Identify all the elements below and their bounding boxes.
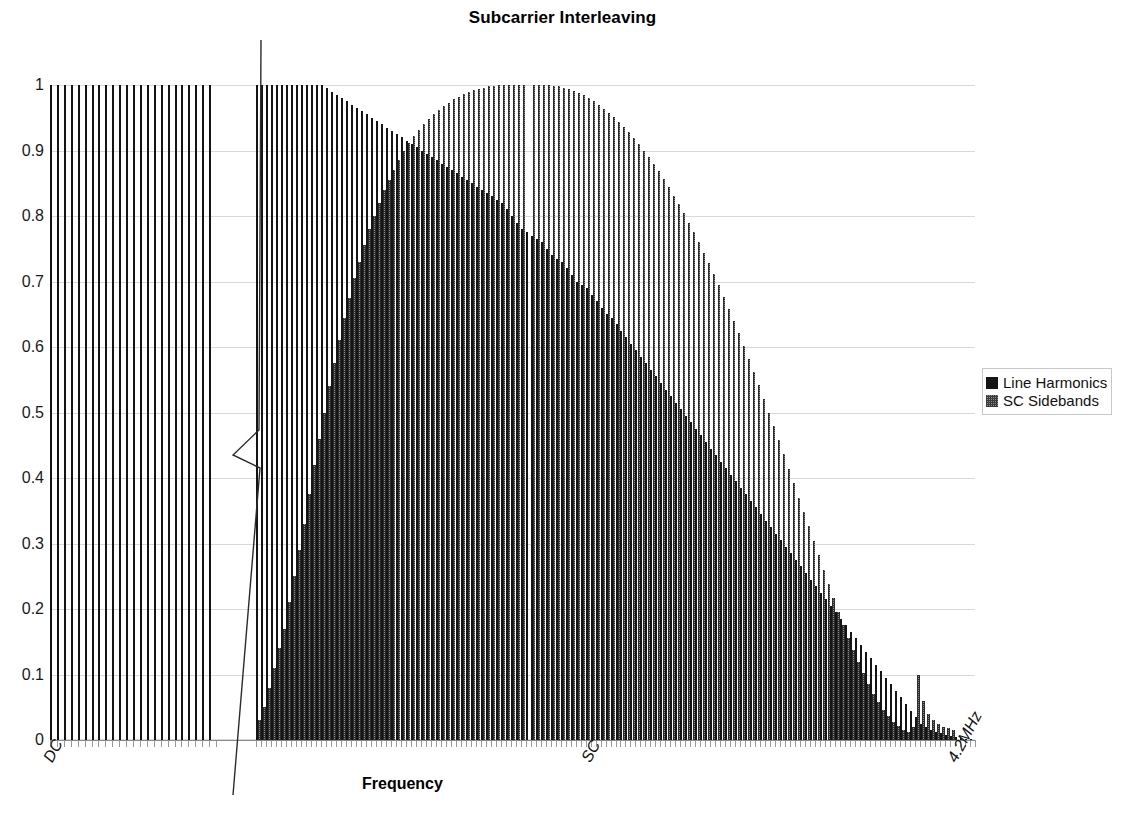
x-axis-tick	[875, 741, 876, 747]
x-axis-tick	[920, 741, 921, 747]
x-axis-tick	[915, 741, 916, 747]
x-axis-tick	[885, 741, 886, 747]
x-axis-tick	[566, 741, 567, 747]
x-axis-tick	[695, 741, 696, 747]
legend-item-line-harmonics: Line Harmonics	[986, 374, 1107, 391]
x-axis-tick	[685, 741, 686, 747]
x-axis-tick	[855, 741, 856, 747]
x-axis-tick	[541, 741, 542, 747]
bar-line-harmonic	[140, 85, 142, 740]
x-axis-tick	[815, 741, 816, 747]
x-axis-tick	[635, 741, 636, 747]
x-axis-tick	[71, 741, 72, 747]
bar-line-harmonic	[119, 85, 121, 740]
x-axis-tick	[850, 741, 851, 747]
x-axis-tick	[371, 741, 372, 747]
x-axis-tick	[209, 741, 210, 747]
x-axis-tick	[501, 741, 502, 747]
bar-line-harmonic	[161, 85, 163, 740]
x-axis-tick	[306, 741, 307, 747]
x-axis-tick	[341, 741, 342, 747]
x-axis-tick	[675, 741, 676, 747]
legend-swatch-sc-sidebands	[986, 395, 998, 407]
bar-line-harmonic	[78, 85, 80, 740]
x-axis-tick	[188, 741, 189, 747]
x-axis-tick	[296, 741, 297, 747]
y-axis-tick-0p1: 0.1	[4, 666, 44, 684]
x-axis-tick	[461, 741, 462, 747]
x-axis-tick	[930, 741, 931, 747]
x-axis-tick	[680, 741, 681, 747]
x-axis-tick	[830, 741, 831, 747]
x-axis-tick	[491, 741, 492, 747]
legend-swatch-line-harmonics	[986, 377, 998, 389]
x-axis-tick	[446, 741, 447, 747]
x-axis-tick	[750, 741, 751, 747]
x-axis-tick	[825, 741, 826, 747]
x-axis-tick	[945, 741, 946, 747]
x-axis-tick	[261, 741, 262, 747]
bar-line-harmonic	[209, 85, 211, 740]
x-axis-tick	[511, 741, 512, 747]
y-axis-tick-0p5: 0.5	[4, 404, 44, 422]
x-axis-tick	[216, 741, 217, 747]
x-axis-tick	[346, 741, 347, 747]
x-axis-tick	[840, 741, 841, 747]
y-axis-tick-0p8: 0.8	[4, 207, 44, 225]
x-axis-tick	[276, 741, 277, 747]
x-axis-tick	[441, 741, 442, 747]
legend-label-sc-sidebands: SC Sidebands	[1003, 392, 1099, 409]
x-axis-tick	[161, 741, 162, 747]
x-axis-tick	[175, 741, 176, 747]
x-axis-tick	[301, 741, 302, 747]
x-axis-tick	[406, 741, 407, 747]
x-axis-tick	[112, 741, 113, 747]
x-axis-tick	[181, 741, 182, 747]
bar-line-harmonic	[85, 85, 87, 740]
x-axis-tick	[291, 741, 292, 747]
x-axis-tick	[845, 741, 846, 747]
x-axis-tick	[700, 741, 701, 747]
bar-line-harmonic	[168, 85, 170, 740]
x-axis-tick	[775, 741, 776, 747]
x-axis-tick	[426, 741, 427, 747]
bar-line-harmonic	[147, 85, 149, 740]
bar-line-harmonic	[98, 85, 100, 740]
x-axis-tick	[630, 741, 631, 747]
x-axis-tick	[386, 741, 387, 747]
x-axis-tick	[625, 741, 626, 747]
bar-line-harmonic	[126, 85, 128, 740]
x-axis-tick	[481, 741, 482, 747]
x-axis-tick	[805, 741, 806, 747]
chart-title: Subcarrier Interleaving	[0, 8, 1125, 28]
x-axis-tick	[531, 741, 532, 747]
x-axis-tick	[925, 741, 926, 747]
x-axis-tick	[660, 741, 661, 747]
x-axis-tick	[690, 741, 691, 747]
bar-line-harmonic	[195, 85, 197, 740]
x-axis-tick	[361, 741, 362, 747]
x-axis-tick	[740, 741, 741, 747]
bar-line-harmonic	[526, 232, 528, 740]
x-axis-tick	[351, 741, 352, 747]
bar-line-harmonic	[276, 85, 278, 740]
x-axis-tick	[890, 741, 891, 747]
x-axis-tick	[561, 741, 562, 747]
bar-line-harmonic	[175, 85, 177, 740]
x-axis-tick	[860, 741, 861, 747]
bar-line-harmonic	[105, 85, 107, 740]
x-axis-tick	[880, 741, 881, 747]
x-axis-tick	[381, 741, 382, 747]
x-axis-tick	[755, 741, 756, 747]
legend-label-line-harmonics: Line Harmonics	[1003, 374, 1107, 391]
x-axis-tick	[745, 741, 746, 747]
y-axis-tick-0p6: 0.6	[4, 338, 44, 356]
x-axis-tick	[795, 741, 796, 747]
x-axis-tick	[326, 741, 327, 747]
x-axis-tick	[735, 741, 736, 747]
y-axis-tick-0p4: 0.4	[4, 469, 44, 487]
x-axis-tick	[331, 741, 332, 747]
x-axis-tick	[133, 741, 134, 747]
x-axis-tick	[571, 741, 572, 747]
x-axis-tick	[780, 741, 781, 747]
